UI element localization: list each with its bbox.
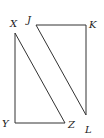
label-z: Z	[67, 119, 76, 130]
label-j: J	[25, 14, 32, 25]
geometry-diagram: X J K Y Z L	[0, 0, 104, 138]
label-y: Y	[2, 118, 10, 129]
segment-xz	[15, 33, 65, 123]
triangle-xyz	[15, 33, 65, 123]
label-l: L	[84, 124, 92, 135]
label-x: X	[9, 18, 18, 29]
segment-jl	[36, 25, 86, 115]
label-k: K	[88, 19, 97, 30]
triangle-jkl	[36, 25, 86, 115]
